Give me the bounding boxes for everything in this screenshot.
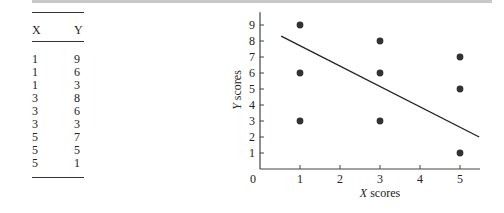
data-point [377,38,384,45]
y-tick-label: 9 [249,18,255,32]
y-tick-label: 5 [249,82,255,96]
data-point [457,54,464,61]
y-tick-label: 7 [249,50,255,64]
y-tick-label: 3 [249,114,255,128]
x-tick-label: 0 [250,172,256,186]
data-point [457,86,464,93]
data-points [297,22,464,157]
y-tick-label: 2 [249,130,255,144]
data-point [377,118,384,125]
data-point [297,22,304,29]
y-tick-label: 4 [249,98,255,112]
x-axis-label: X scores [359,186,401,200]
y-tick-label: 8 [249,34,255,48]
x-tick-label: 3 [377,172,383,186]
y-axis-label: Y scores [230,70,244,110]
axes: 012345123456789 [249,12,480,186]
x-tick-label: 4 [417,172,423,186]
data-point [297,70,304,77]
x-tick-label: 2 [337,172,343,186]
x-tick-label: 1 [297,172,303,186]
x-tick-label: 5 [457,172,463,186]
y-tick-label: 6 [249,66,255,80]
data-point [377,70,384,77]
scatter-plot: 012345123456789 X scores Y scores [0,0,504,213]
data-point [457,150,464,157]
data-point [297,118,304,125]
y-tick-label: 1 [249,146,255,160]
